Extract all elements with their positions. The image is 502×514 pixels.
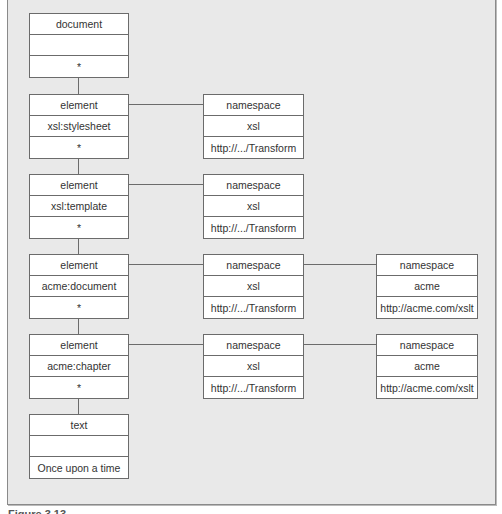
connector-chapter-text: [78, 398, 79, 415]
element-node-acme-document: element acme:document *: [29, 254, 129, 319]
namespace-node-acme: namespace acme http://acme.com/xslt: [376, 334, 478, 399]
namespace-node-xsl: namespace xsl http://.../Transform: [203, 334, 304, 399]
connector-acmedocument-ns: [128, 264, 204, 265]
document-node: document *: [29, 13, 129, 78]
node-name: xsl:template: [30, 196, 128, 217]
node-type: namespace: [204, 255, 303, 276]
text-node: text Once upon a time: [29, 414, 129, 479]
node-type: namespace: [377, 335, 477, 356]
node-name: acme: [377, 276, 477, 297]
node-type: element: [30, 255, 128, 276]
node-type: namespace: [204, 95, 303, 116]
node-name: [30, 35, 128, 56]
node-name: xsl: [204, 196, 303, 217]
node-type: text: [30, 415, 128, 436]
connector-template-ns: [128, 184, 204, 185]
connector-template-acmedocument: [78, 238, 79, 255]
connector-stylesheet-ns: [128, 104, 204, 105]
node-name: acme:chapter: [30, 356, 128, 377]
node-value: http://.../Transform: [204, 297, 303, 318]
node-value: *: [30, 56, 128, 77]
node-name: xsl: [204, 116, 303, 137]
element-node-stylesheet: element xsl:stylesheet *: [29, 94, 129, 159]
namespace-node-acme: namespace acme http://acme.com/xslt: [376, 254, 478, 319]
node-value: http://.../Transform: [204, 217, 303, 238]
node-name: xsl: [204, 356, 303, 377]
node-type: namespace: [204, 335, 303, 356]
element-node-template: element xsl:template *: [29, 174, 129, 239]
figure-caption: Figure 3.13: [8, 508, 66, 514]
node-value: http://acme.com/xslt: [377, 377, 477, 398]
node-name: xsl: [204, 276, 303, 297]
node-value: *: [30, 297, 128, 318]
node-value: *: [30, 377, 128, 398]
connector-chapter-ns-acme: [303, 344, 377, 345]
node-name: [30, 436, 128, 457]
node-name: xsl:stylesheet: [30, 116, 128, 137]
connector-chapter-ns: [128, 344, 204, 345]
node-name: acme: [377, 356, 477, 377]
node-value: *: [30, 137, 128, 158]
connector-acmedocument-ns-acme: [303, 264, 377, 265]
connector-document-stylesheet: [78, 78, 79, 95]
namespace-node-xsl: namespace xsl http://.../Transform: [203, 174, 304, 239]
namespace-node-xsl: namespace xsl http://.../Transform: [203, 94, 304, 159]
node-type: element: [30, 175, 128, 196]
node-type: element: [30, 95, 128, 116]
connector-acmedocument-chapter: [78, 318, 79, 335]
namespace-node-xsl: namespace xsl http://.../Transform: [203, 254, 304, 319]
node-type: namespace: [377, 255, 477, 276]
element-node-acme-chapter: element acme:chapter *: [29, 334, 129, 399]
node-type: element: [30, 335, 128, 356]
node-value: http://.../Transform: [204, 137, 303, 158]
connector-stylesheet-template: [78, 158, 79, 175]
node-value: Once upon a time: [30, 457, 128, 478]
node-value: http://acme.com/xslt: [377, 297, 477, 318]
node-type: document: [30, 14, 128, 35]
node-type: namespace: [204, 175, 303, 196]
node-name: acme:document: [30, 276, 128, 297]
node-value: *: [30, 217, 128, 238]
node-value: http://.../Transform: [204, 377, 303, 398]
